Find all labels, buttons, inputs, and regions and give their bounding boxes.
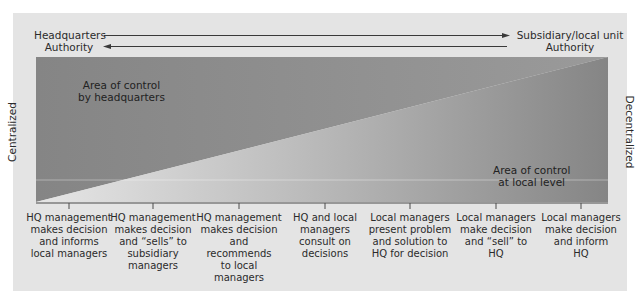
local-control-label: Area of control at local level	[493, 164, 570, 188]
local-control-line2: at local level	[493, 176, 570, 188]
caption-hq-informs: HQ managementmakes decisionand informslo…	[26, 212, 112, 260]
caption-local-informs: Local managersmake decisionand informHQ	[538, 212, 624, 260]
caption-local-sells: Local managersmake decisionand “sell” to…	[453, 212, 539, 260]
arrow-left	[103, 44, 507, 49]
local-authority-line2: Authority	[510, 41, 630, 53]
local-authority-label: Subsidiary/local unit Authority	[510, 29, 630, 53]
caption-hq-recommends: HQ managementmakes decisionand recommend…	[196, 212, 282, 284]
caption-local-present: Local managerspresent problemand solutio…	[367, 212, 453, 260]
caption-hq-sells: HQ managementmakes decisionand “sells” t…	[110, 212, 196, 272]
local-authority-line1: Subsidiary/local unit	[510, 29, 630, 41]
arrow-right	[104, 33, 510, 38]
decentralized-label: Decentralized	[624, 96, 636, 169]
hq-authority-line2: Authority	[34, 41, 104, 53]
hq-control-line2: by headquarters	[78, 91, 165, 103]
hq-control-line1: Area of control	[78, 79, 165, 91]
hq-authority-label: Headquarters Authority	[34, 29, 104, 53]
hq-authority-line1: Headquarters	[34, 29, 104, 41]
centralized-label: Centralized	[6, 102, 18, 162]
caption-consult: HQ and localmanagersconsult ondecisions	[282, 212, 368, 260]
local-control-line1: Area of control	[493, 164, 570, 176]
hq-control-label: Area of control by headquarters	[78, 79, 165, 103]
scale-ticks	[69, 203, 581, 209]
